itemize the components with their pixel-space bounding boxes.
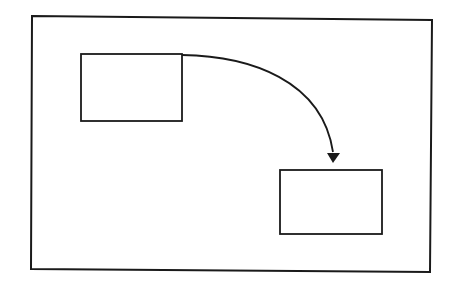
source-box	[81, 54, 182, 121]
target-box	[280, 170, 382, 234]
curved-arrow-line	[182, 55, 333, 152]
arrowhead-icon	[327, 153, 340, 163]
diagram-canvas	[0, 0, 455, 284]
